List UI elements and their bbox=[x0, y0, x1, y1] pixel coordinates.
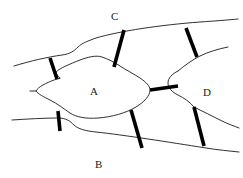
region-label-a: A bbox=[90, 86, 98, 97]
region-label-c: C bbox=[111, 11, 118, 22]
region-label-d: D bbox=[203, 87, 211, 98]
grain-boundary-figure: C A D B bbox=[0, 0, 243, 178]
bar-left-lower bbox=[58, 111, 60, 131]
region-label-b: B bbox=[95, 159, 102, 170]
